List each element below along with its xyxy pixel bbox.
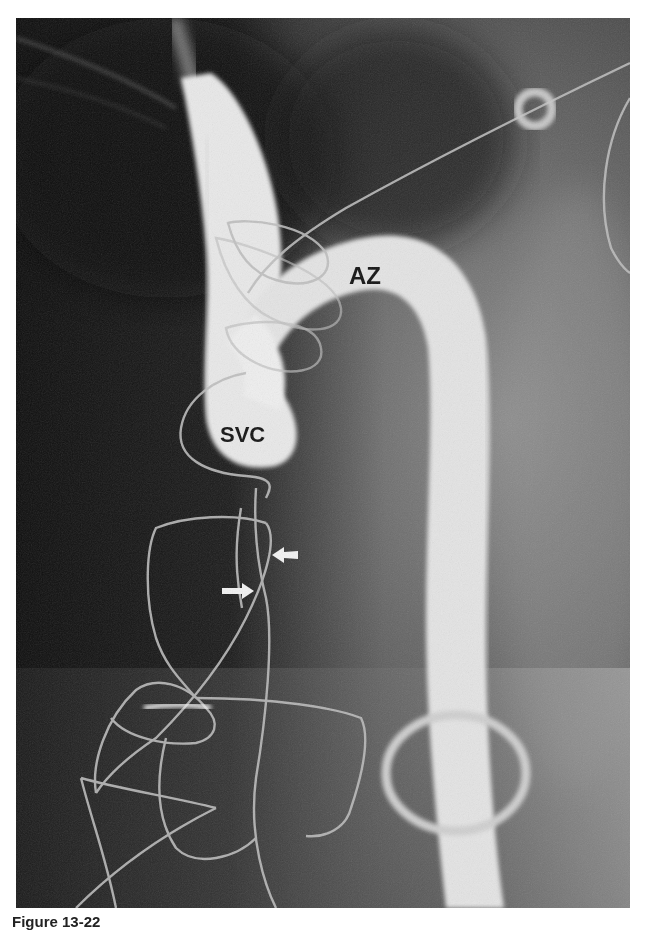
radiograph-image: AZ SVC <box>16 18 630 908</box>
figure-caption: Figure 13-22 <box>12 913 632 933</box>
radiograph-figure: AZ SVC <box>16 18 630 908</box>
